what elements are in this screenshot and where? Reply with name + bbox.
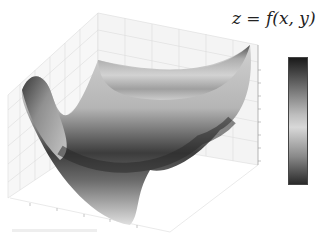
z-axis-ticks xyxy=(258,45,261,165)
chart-title: z = f(x, y) xyxy=(232,8,316,28)
caption-placeholder xyxy=(12,229,97,232)
surface-plot xyxy=(0,0,321,239)
colorbar-ticks xyxy=(308,57,321,183)
colorbar xyxy=(288,57,308,185)
